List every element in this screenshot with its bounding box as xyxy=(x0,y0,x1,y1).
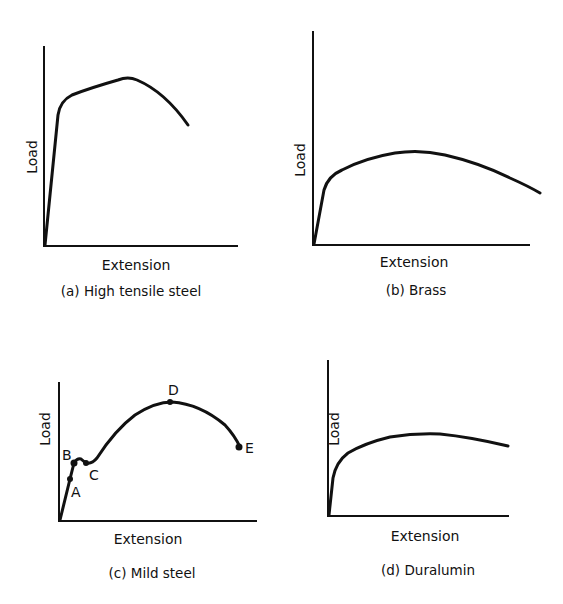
panel-a: Load Extension (a) High tensile steel xyxy=(24,47,237,299)
panel-b: Load Extension (b) Brass xyxy=(292,32,540,298)
panel-caption: (a) High tensile steel xyxy=(61,283,201,299)
y-axis-label: Load xyxy=(292,143,308,177)
y-axis-label: Load xyxy=(326,412,342,446)
point-e-label: E xyxy=(245,440,254,456)
x-axis-label: Extension xyxy=(114,531,183,547)
x-axis-label: Extension xyxy=(380,254,449,270)
point-b-label: B xyxy=(62,447,72,463)
load-extension-curve xyxy=(45,78,188,245)
panel-caption: (d) Duralumin xyxy=(381,562,475,578)
figure-canvas: Load Extension (a) High tensile steel Lo… xyxy=(0,0,563,604)
panel-d: Load Extension (d) Duralumin xyxy=(326,361,508,578)
y-axis-label: Load xyxy=(37,412,53,446)
point-d-label: D xyxy=(168,382,179,398)
point-a-label: A xyxy=(71,484,81,500)
x-axis-label: Extension xyxy=(102,257,171,273)
load-extension-curve xyxy=(314,151,540,244)
y-axis-label: Load xyxy=(24,140,40,174)
point-e-marker xyxy=(236,444,243,451)
panel-caption: (b) Brass xyxy=(386,282,447,298)
x-axis-label: Extension xyxy=(391,528,460,544)
load-extension-curve xyxy=(329,434,508,515)
point-a-marker xyxy=(67,476,73,482)
point-c-marker xyxy=(83,460,89,466)
point-d-marker xyxy=(167,399,173,405)
point-c-label: C xyxy=(89,467,99,483)
panel-c: A B C D E Load Extension (c) Mild steel xyxy=(37,382,256,581)
panel-caption: (c) Mild steel xyxy=(109,565,196,581)
